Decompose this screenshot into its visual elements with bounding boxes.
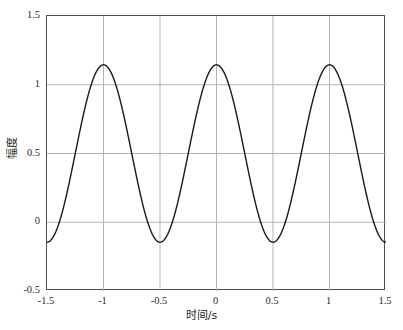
y-tick-label: -0.5: [8, 285, 40, 296]
x-axis-title: 时间/s: [0, 306, 403, 322]
y-axis-title: 幅度: [3, 125, 19, 171]
y-tick-label: 1.5: [8, 10, 40, 21]
x-tick-label: -0.5: [151, 296, 168, 307]
y-tick-label: 1: [8, 79, 40, 90]
x-tick-label: 0.5: [265, 296, 278, 307]
x-tick-label: -1: [98, 296, 107, 307]
chart-figure: -0.500.511.5 -1.5-1-0.500.511.5 时间/s 幅度: [0, 0, 403, 330]
y-tick-label: 0: [8, 216, 40, 227]
x-tick-label: -1.5: [38, 296, 55, 307]
plot-canvas: [47, 16, 386, 291]
x-tick-label: 0: [213, 296, 218, 307]
plot-area: [46, 15, 385, 290]
x-tick-label: 1: [326, 296, 331, 307]
x-tick-label: 1.5: [378, 296, 391, 307]
